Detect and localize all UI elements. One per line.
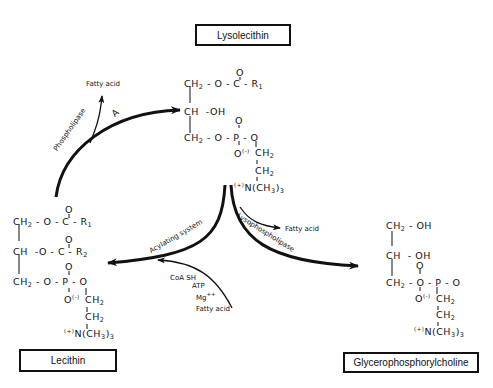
lec-choline: (+)N(CH3)3 bbox=[64, 328, 115, 341]
lyso-row-2: CH -OH bbox=[184, 106, 226, 117]
lec-row-3: CH2 - O - P - O bbox=[13, 276, 88, 289]
lyso-row-3: CH2 - O - P - O bbox=[184, 132, 259, 145]
lec-row-2: CH -O - C - R2 bbox=[13, 246, 88, 259]
lec-row-1: CH2 - O - C - R1 bbox=[13, 216, 92, 229]
lyso-o-minus: O(-) bbox=[234, 148, 250, 159]
gpc-o-minus: O(-) bbox=[415, 293, 431, 304]
lec-o-minus: O(-) bbox=[64, 294, 80, 305]
lyso-ch2-b: CH2 bbox=[255, 165, 274, 178]
gpc-row-3: CH2 - O - P - O bbox=[386, 277, 461, 290]
gpc-ch2-b: CH2 bbox=[436, 309, 455, 322]
atp-label: ATP bbox=[192, 282, 205, 290]
gpc-row-2: CH - OH bbox=[386, 250, 431, 261]
fatty-acid-label-top: Fatty acid bbox=[86, 80, 120, 88]
lyso-choline: (+)N(CH3)3 bbox=[234, 182, 285, 195]
lec-carbonyl-o-1: O bbox=[65, 204, 73, 215]
gpc-choline: (+)N(CH3)3 bbox=[414, 326, 465, 339]
fatty-acid-label-bottom: Fatty acid bbox=[196, 305, 230, 313]
lec-carbonyl-o-2: O bbox=[65, 234, 73, 245]
lec-ch2-a: CH2 bbox=[85, 294, 104, 307]
coa-sh-label: CoA SH bbox=[170, 274, 196, 282]
lyso-carbonyl-o: O bbox=[236, 67, 244, 78]
lyso-phosphate-o-top: O bbox=[235, 115, 243, 126]
gpc-phosphate-o-top: O bbox=[416, 260, 424, 271]
mg-label: Mg++ bbox=[196, 291, 216, 302]
gpc-ch2-a: CH2 bbox=[436, 293, 455, 306]
lec-ch2-b: CH2 bbox=[85, 311, 104, 324]
lyso-ch2-a: CH2 bbox=[255, 147, 274, 160]
lyso-row-1: CH2 - O - C - R1 bbox=[184, 78, 263, 91]
gpc-row-1: CH2 - OH bbox=[386, 220, 432, 233]
lec-phosphate-o-top: O bbox=[65, 261, 73, 272]
fatty-acid-label-mid: Fatty acid bbox=[285, 225, 319, 233]
acylating-arrow bbox=[108, 185, 225, 263]
